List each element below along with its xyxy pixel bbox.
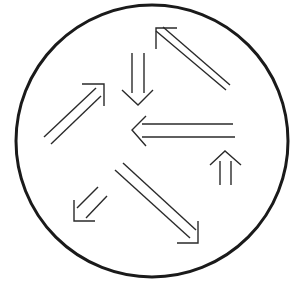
arrow-head [210, 151, 241, 165]
arrow-head [132, 116, 146, 146]
arrow-shaft-line [77, 187, 98, 208]
arrows-group [44, 27, 241, 243]
arrow-shaft-line [44, 88, 96, 137]
arrow-head [74, 200, 95, 221]
arrow-shaft-line [123, 163, 196, 230]
arrow-head [82, 84, 104, 106]
arrow-left-icon [132, 116, 235, 146]
arrow-down-icon [122, 53, 153, 105]
arrow-shaft-line [156, 31, 226, 90]
arrow-shaft-line [51, 96, 101, 144]
arrow-head [122, 90, 153, 105]
arrow-up-left-icon [156, 27, 230, 90]
arrow-down-right-icon [115, 163, 198, 243]
arrow-shaft-line [115, 170, 190, 238]
arrow-shaft-line [86, 196, 107, 218]
arrow-head [177, 221, 198, 243]
arrow-up-right-icon [44, 84, 104, 144]
arrow-circle-diagram [0, 0, 304, 285]
arrow-up-small-icon [210, 151, 241, 185]
arrow-shaft-line [163, 27, 230, 85]
arrow-down-left-icon [74, 187, 107, 221]
outer-circle [16, 5, 288, 277]
